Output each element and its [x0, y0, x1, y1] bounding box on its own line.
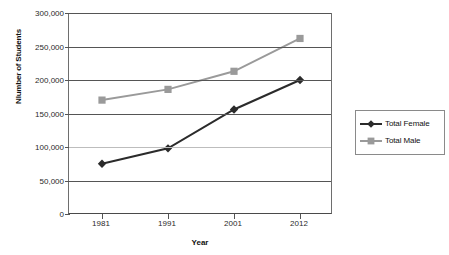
- plot-area: [68, 13, 332, 214]
- y-axis-tick-label: 0: [6, 210, 64, 219]
- legend-label-male: Total Male: [385, 136, 420, 145]
- data-point-marker[interactable]: [230, 68, 237, 75]
- legend-item-total-female[interactable]: Total Female: [359, 115, 441, 132]
- y-axis-tick-label: 50,000: [6, 176, 64, 185]
- data-point-marker[interactable]: [296, 35, 303, 42]
- x-axis-tick-label: 1991: [137, 219, 197, 228]
- y-axis-tick-label: 250,000: [6, 42, 64, 51]
- gridline: [69, 114, 331, 115]
- y-axis-tick-label: 150,000: [6, 109, 64, 118]
- x-axis-tick-label: 2001: [203, 219, 263, 228]
- y-axis-tick-label: 200,000: [6, 76, 64, 85]
- data-point-marker[interactable]: [230, 105, 238, 113]
- series-line-total-female: [102, 80, 300, 164]
- y-axis-tick-mark: [65, 214, 70, 215]
- x-axis-title: Year: [68, 238, 332, 247]
- x-axis-tick-label: 2012: [269, 219, 329, 228]
- data-point-marker[interactable]: [98, 97, 105, 104]
- gridline: [69, 80, 331, 81]
- legend-label-female: Total Female: [385, 119, 430, 128]
- legend-key-female: [359, 118, 383, 130]
- gridline: [69, 147, 331, 148]
- y-axis-tick-mark: [65, 13, 70, 14]
- data-point-marker[interactable]: [98, 160, 106, 168]
- y-axis-tick-label: 300,000: [6, 9, 64, 18]
- gridline: [69, 47, 331, 48]
- y-axis-tick-labels: 300,000250,000200,000150,000100,00050,00…: [4, 0, 64, 255]
- data-point-marker[interactable]: [164, 86, 171, 93]
- chart-container: Nlumber of Students 300,000250,000200,00…: [0, 0, 449, 255]
- gridline: [69, 181, 331, 182]
- data-point-marker[interactable]: [164, 144, 172, 152]
- legend-item-total-male[interactable]: Total Male: [359, 132, 441, 149]
- legend-key-male: [359, 135, 383, 147]
- x-axis-tick-label: 1981: [71, 219, 131, 228]
- y-axis-tick-label: 100,000: [6, 143, 64, 152]
- series-line-total-male: [102, 38, 300, 100]
- chart-legend: Total Female Total Male: [355, 110, 445, 155]
